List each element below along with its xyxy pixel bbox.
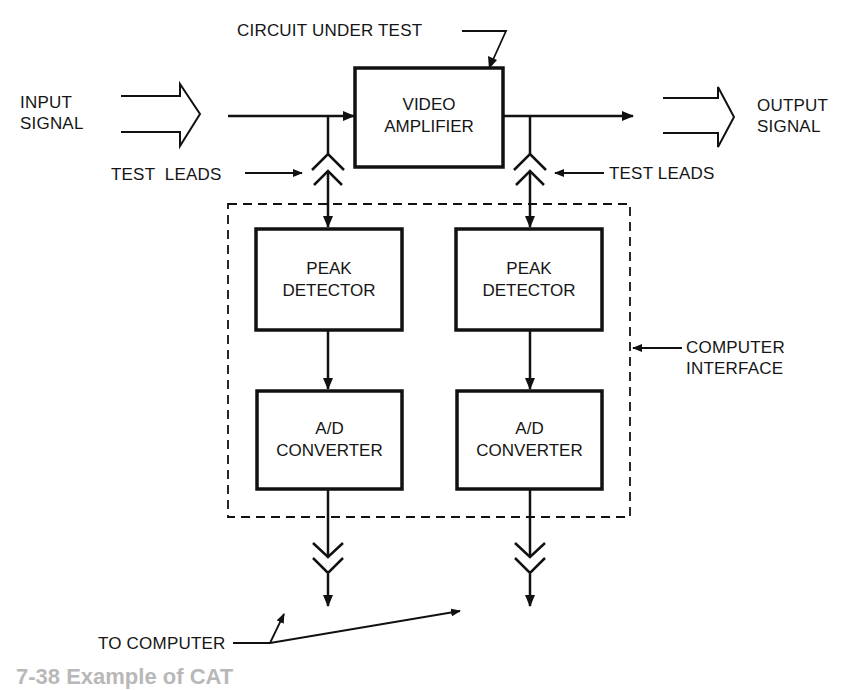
circuit-under-test-label: CIRCUIT UNDER TEST [237, 20, 422, 41]
ad-converter-right-line1: A/D [457, 418, 602, 440]
input-signal-label: INPUT SIGNAL [20, 92, 84, 134]
peak-detector-right-line2: DETECTOR [456, 280, 602, 302]
test-leads-right-label: TEST LEADS [609, 163, 715, 184]
peak-detector-left-label: PEAK DETECTOR [256, 258, 402, 302]
left-computer-connector-icon [313, 490, 343, 606]
peak-detector-left-line1: PEAK [256, 258, 402, 280]
output-signal-arrow-icon [663, 87, 734, 147]
computer-interface-line1: COMPUTER [686, 337, 785, 358]
circuit-under-test-callout-line [462, 31, 506, 69]
to-computer-callout-lines [233, 611, 460, 643]
computer-interface-line2: INTERFACE [686, 358, 785, 379]
peak-detector-right-label: PEAK DETECTOR [456, 258, 602, 302]
video-amplifier-label: VIDEO AMPLIFIER [355, 94, 503, 138]
ad-converter-right-label: A/D CONVERTER [457, 418, 602, 462]
ad-converter-left-line1: A/D [257, 418, 402, 440]
computer-interface-label: COMPUTER INTERFACE [686, 337, 785, 379]
test-leads-left-label: TEST LEADS [111, 164, 222, 185]
peak-detector-left-line2: DETECTOR [256, 280, 402, 302]
video-amplifier-line1: VIDEO [355, 94, 503, 116]
right-computer-connector-icon [515, 490, 545, 606]
right-test-lead-connector-icon [514, 116, 546, 227]
output-signal-line1: OUTPUT [757, 95, 828, 116]
left-test-lead-connector-icon [312, 116, 344, 227]
output-signal-line2: SIGNAL [757, 116, 828, 137]
ad-converter-right-line2: CONVERTER [457, 440, 602, 462]
output-signal-label: OUTPUT SIGNAL [757, 95, 828, 137]
ad-converter-left-label: A/D CONVERTER [257, 418, 402, 462]
ad-converter-left-line2: CONVERTER [257, 440, 402, 462]
figure-caption-truncated: 7-38 Example of CAT [16, 664, 233, 690]
input-signal-line1: INPUT [20, 92, 84, 113]
input-signal-arrow-icon [121, 84, 200, 146]
to-computer-label: TO COMPUTER [98, 633, 226, 654]
video-amplifier-line2: AMPLIFIER [355, 116, 503, 138]
input-signal-line2: SIGNAL [20, 113, 84, 134]
peak-detector-right-line1: PEAK [456, 258, 602, 280]
